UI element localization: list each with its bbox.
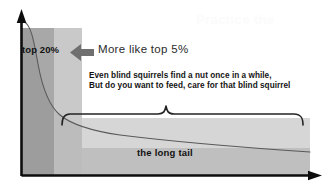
- horizontal-axis-arrowhead: [308, 171, 322, 181]
- diagram-graphics: [0, 0, 334, 193]
- long-tail-label: the long tail: [137, 147, 193, 158]
- head-band-label: top 20%: [22, 44, 59, 55]
- callout-label: More like top 5%: [98, 43, 188, 55]
- band-tail-lower: [82, 148, 310, 176]
- annotation-text-block: Even blind squirrels find a nut once in …: [89, 71, 290, 90]
- annotation-line-2: But do you want to feed, care for that b…: [89, 81, 290, 91]
- vertical-axis-arrowhead: [17, 9, 27, 23]
- diagram-canvas: Practice the: [0, 0, 334, 193]
- annotation-line-1: Even blind squirrels find a nut once in …: [89, 71, 290, 81]
